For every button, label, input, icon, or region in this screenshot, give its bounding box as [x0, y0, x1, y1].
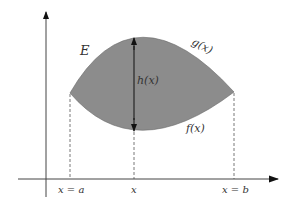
tick-label-x: x	[131, 184, 137, 195]
tick-label-a: x = a	[58, 184, 84, 195]
region-between-curves-diagram: E g(x) f(x) h(x) x = a x x = b	[0, 0, 292, 219]
upper-curve-label: g(x)	[190, 35, 215, 57]
diagram-canvas: E g(x) f(x) h(x) x = a x x = b	[0, 0, 292, 219]
region-label-e: E	[79, 43, 90, 58]
tick-label-b: x = b	[222, 184, 249, 195]
height-label: h(x)	[137, 74, 159, 87]
lower-curve-label: f(x)	[185, 122, 205, 135]
